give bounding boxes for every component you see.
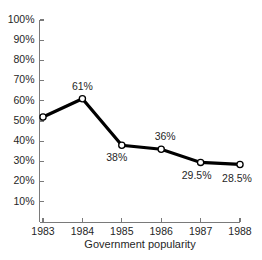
x-axis: 198319841985198619871988 [31,218,252,238]
y-tick-label: 90% [13,33,34,45]
data-point-marker [198,159,204,165]
data-point-label: 38% [106,151,127,163]
data-point-markers [40,96,243,168]
data-point-marker [158,146,164,152]
x-tick-label: 1983 [31,225,55,237]
y-tick-label: 70% [13,73,34,85]
x-tick-label: 1984 [71,225,95,237]
data-point-marker [40,114,46,120]
y-axis-tick-labels: 10%20%30%40%50%60%70%80%90%100% [8,13,35,207]
y-tick-label: 10% [13,195,34,207]
y-tick-label: 50% [13,114,34,126]
y-axis: 10%20%30%40%50%60%70%80%90%100% [8,13,44,222]
x-axis-ticks [43,218,240,223]
x-tick-label: 1988 [228,225,252,237]
x-axis-tick-labels: 198319841985198619871988 [31,225,252,237]
data-point-label: 28.5% [222,172,252,184]
data-point-marker [119,142,125,148]
data-point-labels: 61%38%36%29.5%28.5% [72,80,252,185]
data-point-label: 36% [155,130,176,142]
x-tick-label: 1986 [150,225,174,237]
x-tick-label: 1987 [189,225,213,237]
chart-container: 10%20%30%40%50%60%70%80%90%100% 19831984… [0,0,262,260]
x-axis-title: Government popularity [84,238,196,250]
data-point-marker [79,96,85,102]
y-axis-ticks [40,20,45,202]
y-tick-label: 30% [13,154,34,166]
series-line-government-popularity [43,99,240,165]
y-tick-label: 20% [13,174,34,186]
data-point-label: 29.5% [182,169,212,181]
y-tick-label: 100% [8,13,35,25]
y-tick-label: 60% [13,94,34,106]
x-tick-label: 1985 [110,225,134,237]
y-tick-label: 80% [13,53,34,65]
data-point-marker [237,161,243,167]
data-point-label: 61% [72,80,93,92]
line-chart: 10%20%30%40%50%60%70%80%90%100% 19831984… [0,0,262,260]
y-tick-label: 40% [13,134,34,146]
